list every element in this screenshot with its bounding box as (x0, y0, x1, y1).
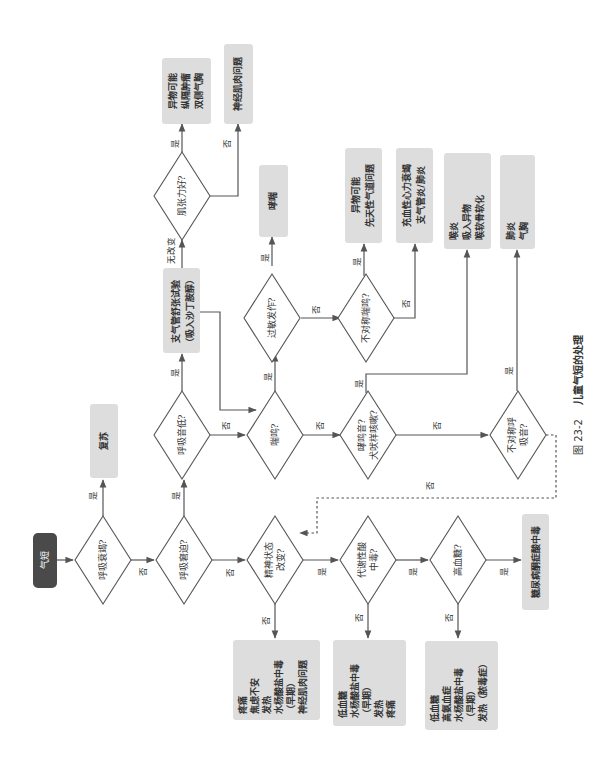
label-no: 否 (401, 299, 411, 308)
svg-text:气短: 气短 (39, 551, 50, 569)
label-no: 否 (432, 421, 442, 430)
outcome-chf-bronchitis: 充血性心力衰竭 支气管炎/肺炎 (396, 148, 433, 243)
label-no: 否 (221, 421, 231, 430)
label-yes: 是 (499, 567, 509, 576)
svg-text:喉炎: 喉炎 (448, 222, 459, 240)
label-no: 否 (311, 305, 321, 314)
svg-text:纵隔肿瘤: 纵隔肿瘤 (180, 73, 191, 109)
decision-mental-status: 精神状态 改变? (247, 516, 303, 604)
decision-wheeze: 喘鸣? (247, 391, 303, 479)
svg-text:代谢性酸: 代谢性酸 (356, 542, 367, 578)
outcome-hypoglycemia-hyperammonemia-sepsis: 低血糖 高氨血症 水杨酸盐中毒 （早期） 发热（脓毒症） (425, 641, 498, 730)
outcome-hypoglycemia-salicylate: 低血糖 水杨酸盐中毒 （早期） 发热 疼痛 (333, 640, 406, 726)
label-yes: 是 (354, 379, 364, 388)
label-yes: 是 (317, 567, 327, 576)
svg-text:气胸: 气胸 (518, 222, 529, 241)
svg-text:充血性心力衰竭: 充血性心力衰竭 (401, 164, 412, 227)
label-no: 否 (225, 568, 235, 577)
svg-text:高血糖?: 高血糖? (452, 544, 463, 576)
outcome-dka: 糖尿病酮症酸中毒 (522, 514, 549, 610)
label-yes: 是 (170, 368, 180, 377)
outcome-pneumonia-pneumothorax: 肺炎 气胸 (500, 155, 535, 249)
svg-text:水杨酸盐中毒: 水杨酸盐中毒 (349, 664, 360, 718)
svg-text:哮鸣音?: 哮鸣音? (356, 419, 367, 451)
label-no: 否 (222, 139, 232, 148)
decision-asymmetric-wheeze: 不对称喘鸣? (338, 274, 394, 362)
svg-text:犬吠样咳嗽?: 犬吠样咳嗽? (368, 410, 379, 460)
svg-text:呼吸音低?: 呼吸音低? (176, 414, 187, 455)
label-no: 否 (354, 613, 364, 622)
flowchart: 是 否 是 否 是 否 无改变 是 否 是 是 否 是 否 否 是 否 是 否 … (0, 0, 610, 757)
caption-title: 儿童气短的处理 (572, 335, 584, 406)
svg-text:哮喘: 哮喘 (267, 192, 278, 210)
decision-respiratory-failure: 呼吸衰竭? (75, 516, 131, 604)
decision-hyperglycemia: 高血糖? (430, 516, 486, 604)
svg-text:发热: 发热 (261, 696, 272, 715)
svg-text:糖尿病酮症酸中毒: 糖尿病酮症酸中毒 (530, 526, 541, 598)
svg-text:喉软骨软化: 喉软骨软化 (474, 195, 485, 240)
label-no: 否 (425, 481, 435, 490)
label-no: 否 (315, 421, 325, 430)
svg-text:呼吸窘迫?: 呼吸窘迫? (178, 539, 189, 580)
svg-text:肺炎: 肺炎 (505, 222, 516, 240)
svg-text:（早期）: （早期） (465, 686, 476, 722)
svg-text:疼痛: 疼痛 (385, 700, 396, 718)
outcome-foreign-body-tumor-pneumothorax: 异物可能 纵隔肿瘤 双侧气胸 (162, 58, 211, 124)
figure-caption: 图 23-2 儿童气短的处理 (572, 335, 584, 455)
label-no: 否 (444, 613, 454, 622)
outcome-asthma: 哮喘 (259, 165, 288, 237)
label-yes: 是 (260, 253, 270, 262)
svg-text:（吸入沙丁胺醇）: （吸入沙丁胺醇） (184, 275, 195, 347)
svg-text:水杨酸盐中毒: 水杨酸盐中毒 (453, 668, 464, 722)
start-node: 气短 (33, 533, 57, 588)
svg-text:支气管炎/肺炎: 支气管炎/肺炎 (415, 166, 426, 224)
svg-text:喘鸣?: 喘鸣? (269, 423, 280, 446)
label-no: 否 (261, 616, 271, 625)
svg-text:焦虑不安: 焦虑不安 (249, 678, 260, 715)
outcome-pain-anxiety-fever: 疼痛 焦虑不安 发热 水杨酸盐中毒 （早期） 神经肌肉问题 (233, 640, 320, 720)
label-yes: 是 (171, 491, 181, 500)
svg-text:疼痛: 疼痛 (237, 696, 248, 714)
caption-number: 图 23-2 (573, 419, 584, 455)
svg-text:水杨酸盐中毒: 水杨酸盐中毒 (273, 660, 284, 714)
outcome-resuscitate: 复苏 (90, 404, 118, 478)
svg-text:先天性气道问题: 先天性气道问题 (364, 163, 375, 227)
svg-text:发热: 发热 (373, 700, 384, 719)
svg-text:低血糖: 低血糖 (337, 691, 348, 719)
action-bronchodilator-test: 支气管舒张试验 （吸入沙丁胺醇） (163, 268, 200, 353)
decision-asymmetric-breath-sounds: 不对称呼 吸音? (490, 391, 546, 479)
svg-text:支气管舒张试验: 支气管舒张试验 (170, 279, 181, 344)
label-yes: 是 (504, 366, 514, 375)
svg-text:呼吸衰竭?: 呼吸衰竭? (97, 539, 108, 580)
label-no: 否 (138, 567, 148, 576)
svg-text:（早期）: （早期） (361, 682, 372, 718)
outcome-foreign-body-congenital: 异物可能 先天性气道问题 (345, 148, 382, 243)
svg-text:低血糖: 低血糖 (429, 695, 440, 723)
svg-text:高氨血症: 高氨血症 (441, 686, 452, 722)
svg-text:双侧气胸: 双侧气胸 (193, 73, 204, 109)
svg-text:肌张力好?: 肌张力好? (176, 175, 187, 216)
label-yes: 是 (352, 257, 362, 266)
svg-text:复苏: 复苏 (98, 432, 109, 451)
decision-respiratory-distress: 呼吸窘迫? (156, 516, 212, 604)
svg-text:过敏发作?: 过敏发作? (266, 297, 277, 338)
svg-text:吸音?: 吸音? (518, 423, 529, 446)
decision-low-breath-sounds: 呼吸音低? (154, 391, 210, 479)
svg-text:不对称喘鸣?: 不对称喘鸣? (360, 293, 371, 343)
svg-text:不对称呼: 不对称呼 (506, 417, 517, 453)
outcome-croup: 喉炎 吸入异物 喉软骨软化 (444, 153, 491, 249)
svg-text:神经肌肉问题: 神经肌肉问题 (297, 659, 308, 714)
svg-text:异物可能: 异物可能 (167, 73, 178, 109)
label-yes: 是 (170, 139, 180, 148)
outcome-neuromuscular: 神经肌肉问题 (224, 44, 253, 124)
svg-text:中毒?: 中毒? (368, 548, 379, 571)
svg-text:发热（脓毒症）: 发热（脓毒症） (477, 659, 488, 723)
label-no-change: 无改变 (166, 237, 176, 264)
decision-metabolic-acidosis: 代谢性酸 中毒? (340, 516, 396, 604)
svg-text:精神状态: 精神状态 (263, 542, 274, 578)
label-yes: 是 (408, 567, 418, 576)
svg-text:（早期）: （早期） (285, 678, 296, 714)
decision-allergy: 过敏发作? (244, 274, 300, 362)
label-yes: 是 (88, 491, 98, 500)
decision-stridor: 哮鸣音? 犬吠样咳嗽? (340, 391, 396, 479)
